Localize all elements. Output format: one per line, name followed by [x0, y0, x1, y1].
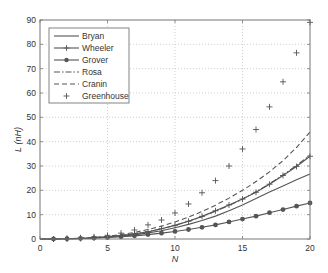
y-axis-label: L (nH) [13, 127, 23, 152]
y-tick-label: 90 [27, 15, 37, 25]
legend-label: Wheeler [82, 43, 114, 53]
legend-label: Greenhouse [82, 91, 129, 101]
x-axis-label: N [172, 254, 179, 264]
legend-label: Bryan [82, 31, 104, 41]
x-tick-label: 0 [38, 243, 43, 253]
y-tick-label: 70 [27, 64, 37, 74]
y-tick-label: 40 [27, 137, 37, 147]
y-tick-label: 50 [27, 112, 37, 122]
legend-label: Rosa [82, 67, 102, 77]
x-tick-label: 20 [305, 243, 315, 253]
legend: BryanWheelerGroverRosaCraninGreenhouse [49, 28, 129, 103]
chart: 051015200102030405060708090 N L (nH) Bry… [0, 0, 328, 273]
y-tick-label: 20 [27, 185, 37, 195]
y-tick-label: 10 [27, 210, 37, 220]
y-tick-label: 80 [27, 39, 37, 49]
x-tick-label: 15 [238, 243, 248, 253]
y-tick-label: 30 [27, 161, 37, 171]
legend-label: Cranin [82, 79, 107, 89]
y-tick-label: 60 [27, 88, 37, 98]
series-wheeler [40, 153, 313, 242]
y-tick-label: 0 [31, 234, 36, 244]
x-tick-label: 5 [105, 243, 110, 253]
legend-label: Grover [82, 55, 108, 65]
x-tick-label: 10 [170, 243, 180, 253]
